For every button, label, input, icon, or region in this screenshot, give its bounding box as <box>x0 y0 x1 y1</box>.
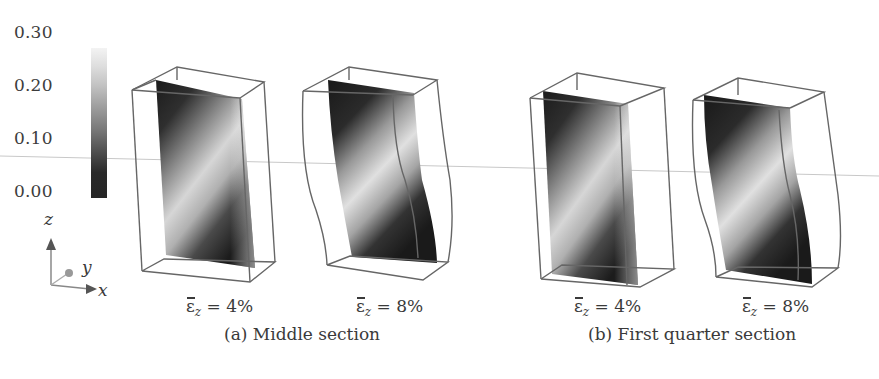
strain-label-b-8: εz = 8% <box>742 296 809 319</box>
panel-a-8pct <box>303 67 453 280</box>
caption-a: (a) Middle section <box>224 324 380 344</box>
figure: 0.30 0.20 0.10 0.00 z y x <box>0 0 879 379</box>
panel-a-4pct <box>132 67 275 282</box>
caption-b: (b) First quarter section <box>588 324 796 344</box>
strain-label-a-8: εz = 8% <box>356 296 423 319</box>
strain-label-b-4: εz = 4% <box>574 296 641 319</box>
panel-b-8pct <box>693 78 841 287</box>
panels-svg <box>0 0 879 379</box>
panel-b-4pct <box>530 73 674 287</box>
strain-label-a-4: εz = 4% <box>186 296 253 319</box>
